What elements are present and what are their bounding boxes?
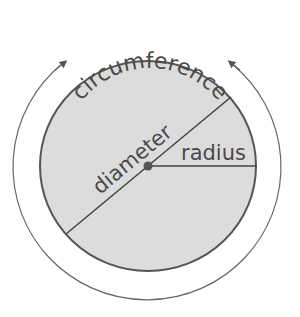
arrow-left-icon [55,62,65,70]
diagram-canvas: circumference diameter radius [0,0,300,317]
arrow-right-icon [230,62,240,70]
circle-diagram: circumference diameter radius [0,0,300,317]
radius-label: radius [181,141,246,165]
